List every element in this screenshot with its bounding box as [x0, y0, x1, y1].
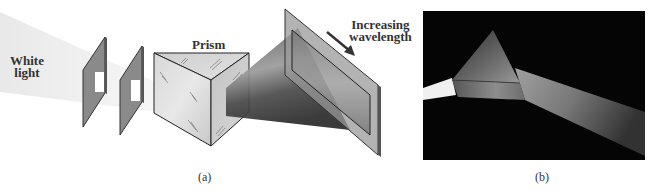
panel-a [0, 9, 381, 157]
diagram-canvas [0, 0, 658, 195]
panel-a-caption: (a) [198, 171, 211, 183]
prism-label: Prism [192, 38, 225, 51]
slit-1 [83, 37, 107, 127]
increasing-label-line2: wavelength [349, 31, 412, 43]
figure: White light Prism Increasing wavelength … [0, 0, 658, 195]
white-light-label: White light [10, 55, 44, 79]
white-light-label-line2: light [10, 67, 44, 79]
increasing-wavelength-label: Increasing wavelength [349, 19, 412, 43]
panel-b-photo [423, 11, 645, 160]
slit-1-aperture [95, 72, 104, 92]
panel-b-caption: (b) [535, 171, 549, 183]
slit-2-aperture [131, 80, 140, 101]
slit-2 [120, 46, 144, 135]
